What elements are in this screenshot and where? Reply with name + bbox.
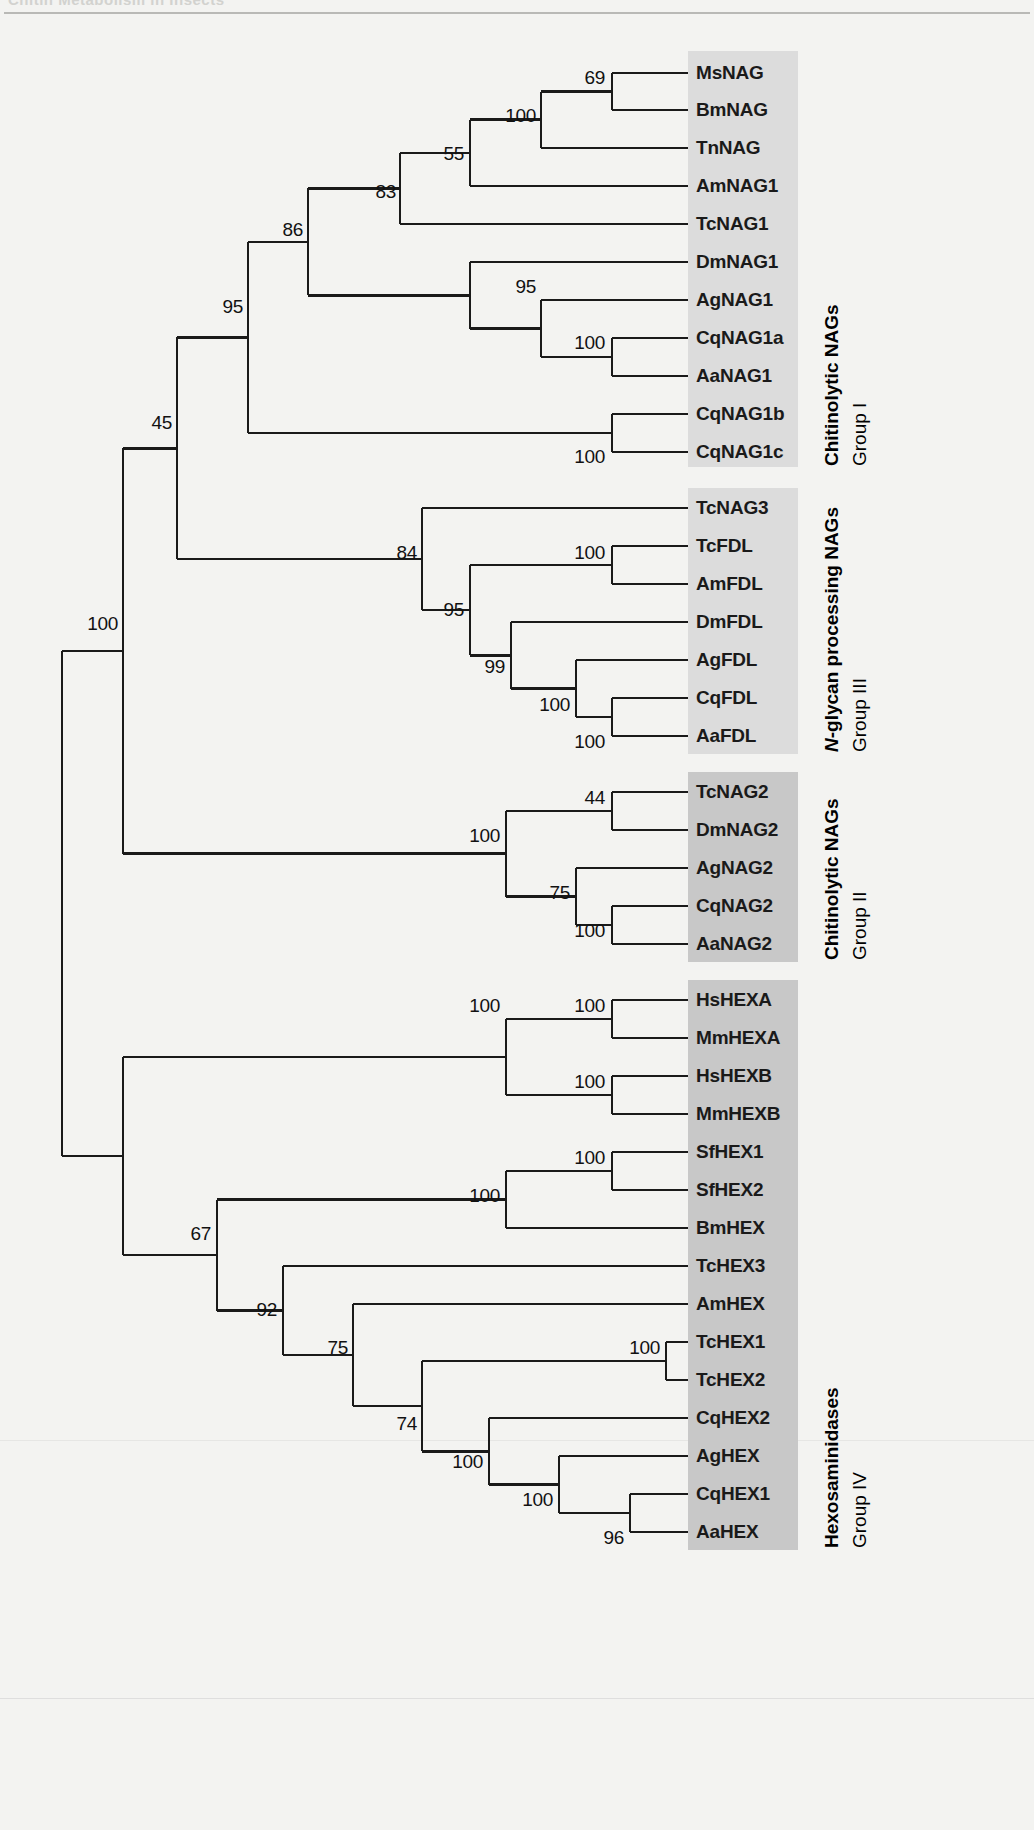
bootstrap-value: 45 bbox=[151, 412, 172, 434]
bootstrap-value: 95 bbox=[515, 276, 536, 298]
bootstrap-value: 96 bbox=[603, 1527, 624, 1549]
phylogenetic-tree: MsNAGBmNAGTnNAGAmNAG1TcNAG1DmNAG1AgNAG1C… bbox=[0, 0, 1034, 1830]
bootstrap-value: 100 bbox=[522, 1489, 553, 1511]
taxon-label: CqNAG1a bbox=[696, 327, 783, 349]
group-annotation-line1: Chitinolytic NAGs bbox=[822, 798, 841, 960]
taxon-label: BmHEX bbox=[696, 1217, 765, 1239]
tree-branches bbox=[0, 0, 1034, 1830]
taxon-label: CqFDL bbox=[696, 687, 757, 709]
bootstrap-value: 100 bbox=[574, 446, 605, 468]
taxon-label: AgNAG2 bbox=[696, 857, 773, 879]
taxon-label: AmNAG1 bbox=[696, 175, 778, 197]
bootstrap-value: 100 bbox=[469, 1185, 500, 1207]
taxon-label: AaNAG1 bbox=[696, 365, 772, 387]
bootstrap-value: 100 bbox=[87, 613, 118, 635]
bootstrap-value: 100 bbox=[505, 105, 536, 127]
bootstrap-value: 100 bbox=[574, 731, 605, 753]
bootstrap-value: 83 bbox=[375, 181, 396, 203]
scan-artifact-line-lower bbox=[0, 1698, 1034, 1699]
bootstrap-value: 100 bbox=[574, 1071, 605, 1093]
bootstrap-value: 100 bbox=[574, 920, 605, 942]
bootstrap-value: 44 bbox=[584, 787, 605, 809]
taxon-label: TcFDL bbox=[696, 535, 753, 557]
taxon-label: TcNAG2 bbox=[696, 781, 768, 803]
taxon-label: AgFDL bbox=[696, 649, 757, 671]
bootstrap-value: 100 bbox=[539, 694, 570, 716]
group-annotation-line2: Group IV bbox=[850, 1472, 869, 1548]
bootstrap-value: 100 bbox=[574, 542, 605, 564]
taxon-label: TcNAG1 bbox=[696, 213, 768, 235]
group-annotation-line2: Group I bbox=[850, 403, 869, 466]
taxon-label: CqHEX1 bbox=[696, 1483, 770, 1505]
taxon-label: AmFDL bbox=[696, 573, 763, 595]
taxon-label: HsHEXA bbox=[696, 989, 772, 1011]
group-annotation-line1: Hexosaminidases bbox=[822, 1387, 841, 1548]
taxon-label: MmHEXA bbox=[696, 1027, 780, 1049]
bootstrap-value: 74 bbox=[396, 1413, 417, 1435]
group-annotation-line1: N-glycan processing NAGs bbox=[822, 507, 841, 752]
bootstrap-value: 95 bbox=[222, 296, 243, 318]
bootstrap-value: 100 bbox=[574, 1147, 605, 1169]
taxon-label: HsHEXB bbox=[696, 1065, 772, 1087]
group-annotation-line2: Group III bbox=[850, 678, 869, 752]
group-annotation-line2: Group II bbox=[850, 891, 869, 960]
bootstrap-value: 95 bbox=[443, 599, 464, 621]
bootstrap-value: 67 bbox=[190, 1223, 211, 1245]
taxon-label: AgHEX bbox=[696, 1445, 759, 1467]
taxon-label: TcHEX2 bbox=[696, 1369, 765, 1391]
bootstrap-value: 100 bbox=[574, 332, 605, 354]
bootstrap-value: 55 bbox=[443, 143, 464, 165]
bootstrap-value: 100 bbox=[629, 1337, 660, 1359]
bootstrap-value: 99 bbox=[484, 656, 505, 678]
bootstrap-value: 86 bbox=[282, 219, 303, 241]
taxon-label: CqHEX2 bbox=[696, 1407, 770, 1429]
bootstrap-value: 69 bbox=[584, 67, 605, 89]
taxon-label: DmFDL bbox=[696, 611, 763, 633]
taxon-label: TcHEX1 bbox=[696, 1331, 765, 1353]
taxon-label: BmNAG bbox=[696, 99, 768, 121]
bootstrap-value: 84 bbox=[396, 542, 417, 564]
taxon-label: AaNAG2 bbox=[696, 933, 772, 955]
bootstrap-value: 100 bbox=[574, 995, 605, 1017]
taxon-label: SfHEX1 bbox=[696, 1141, 763, 1163]
taxon-label: MsNAG bbox=[696, 62, 764, 84]
taxon-label: DmNAG1 bbox=[696, 251, 778, 273]
group-annotation-line1: Chitinolytic NAGs bbox=[822, 304, 841, 466]
taxon-label: CqNAG1c bbox=[696, 441, 783, 463]
taxon-label: MmHEXB bbox=[696, 1103, 780, 1125]
figure-canvas: Chitin Metabolism in Insects MsNAGBmNAGT… bbox=[0, 0, 1034, 1830]
bootstrap-value: 75 bbox=[549, 882, 570, 904]
taxon-label: TcNAG3 bbox=[696, 497, 768, 519]
taxon-label: DmNAG2 bbox=[696, 819, 778, 841]
taxon-label: TcHEX3 bbox=[696, 1255, 765, 1277]
bootstrap-value: 100 bbox=[469, 825, 500, 847]
taxon-label: AaFDL bbox=[696, 725, 756, 747]
taxon-label: AgNAG1 bbox=[696, 289, 773, 311]
taxon-label: SfHEX2 bbox=[696, 1179, 763, 1201]
bootstrap-value: 75 bbox=[327, 1337, 348, 1359]
bootstrap-value: 100 bbox=[469, 995, 500, 1017]
bootstrap-value: 100 bbox=[452, 1451, 483, 1473]
taxon-label: AaHEX bbox=[696, 1521, 758, 1543]
bootstrap-value: 92 bbox=[256, 1299, 277, 1321]
taxon-label: AmHEX bbox=[696, 1293, 765, 1315]
taxon-label: CqNAG1b bbox=[696, 403, 784, 425]
taxon-label: CqNAG2 bbox=[696, 895, 773, 917]
taxon-label: TnNAG bbox=[696, 137, 760, 159]
